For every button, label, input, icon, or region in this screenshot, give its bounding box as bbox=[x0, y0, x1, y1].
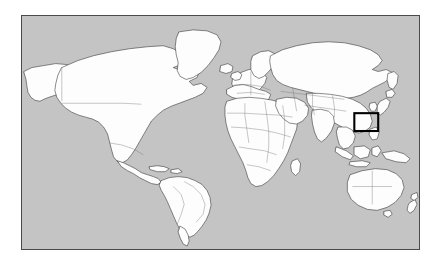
world-map-frame bbox=[21, 15, 420, 250]
figure-canvas bbox=[0, 0, 441, 265]
land-korea bbox=[369, 102, 377, 111]
world-map-svg bbox=[22, 16, 419, 249]
